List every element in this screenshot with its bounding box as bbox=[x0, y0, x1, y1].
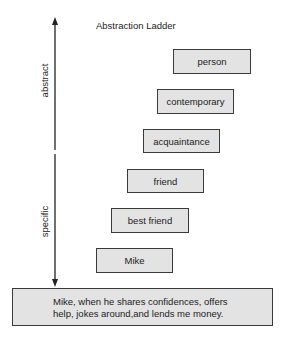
specific-label: specific bbox=[39, 200, 50, 244]
arrow-up-icon bbox=[52, 17, 58, 25]
rung-label: acquaintance bbox=[153, 136, 210, 147]
rung-friend: friend bbox=[127, 169, 204, 193]
rung-acquaintance: acquaintance bbox=[143, 129, 220, 153]
rung-mike: Mike bbox=[96, 248, 173, 273]
diagram-title: Abstraction Ladder bbox=[96, 20, 176, 31]
rung-person: person bbox=[173, 49, 251, 74]
arrow-down-icon bbox=[52, 279, 58, 287]
rung-contemporary: contemporary bbox=[157, 89, 234, 114]
abstract-label: abstract bbox=[39, 59, 50, 103]
rung-label: best friend bbox=[128, 215, 172, 226]
base-line-2: help, jokes around,and lends me money. bbox=[53, 308, 272, 320]
rung-best-friend: best friend bbox=[111, 208, 189, 233]
rung-label: contemporary bbox=[166, 96, 224, 107]
rung-label: Mike bbox=[124, 255, 144, 266]
base-description-box: Mike, when he shares confidences, offers… bbox=[12, 288, 273, 326]
base-line-1: Mike, when he shares confidences, offers bbox=[53, 296, 272, 308]
rung-label: friend bbox=[154, 176, 178, 187]
rung-label: person bbox=[197, 56, 226, 67]
